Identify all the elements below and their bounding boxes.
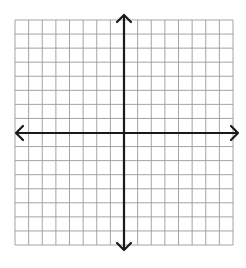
axes (16, 15, 238, 250)
coordinate-plane (0, 0, 246, 268)
coordinate-grid (0, 0, 246, 268)
